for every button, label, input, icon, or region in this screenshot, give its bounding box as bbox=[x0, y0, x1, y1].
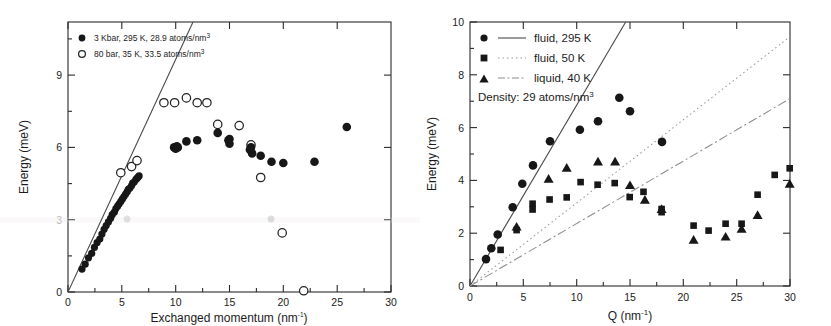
y-tick-labels-right: 0 2 4 6 8 10 bbox=[452, 16, 464, 292]
series-square-right bbox=[497, 165, 793, 253]
dispersion-line-left bbox=[68, 22, 193, 292]
scan-artifact-dot bbox=[268, 216, 275, 223]
x-tick-labels-left: 0 5 10 15 20 25 30 bbox=[65, 296, 397, 308]
svg-text:6: 6 bbox=[458, 122, 464, 134]
svg-text:4: 4 bbox=[458, 174, 464, 186]
scan-artifact-dot-2 bbox=[124, 216, 131, 223]
legend-marker-circle bbox=[480, 34, 487, 41]
series-filled-circle-left bbox=[78, 123, 351, 273]
y-axis-ticks-right bbox=[470, 22, 790, 286]
svg-text:8: 8 bbox=[458, 69, 464, 81]
svg-text:10: 10 bbox=[452, 16, 464, 28]
figure-container: 0 5 10 15 20 25 30 0 3 6 9 Exchanged mom… bbox=[0, 0, 831, 326]
svg-text:5: 5 bbox=[520, 291, 526, 303]
plot-frame-left bbox=[68, 22, 391, 292]
y-tick-labels-left: 0 3 6 9 bbox=[56, 69, 62, 298]
legend-left: 3 Kbar, 295 K, 28.9 atoms/nm3 80 bar, 35… bbox=[79, 32, 211, 59]
legend-label-1: 80 bar, 35 K, 33.5 atoms/nm3 bbox=[94, 48, 205, 59]
x-axis-title-left: Exchanged momentum (nm-1) bbox=[150, 311, 307, 325]
legend-label-r-1: fluid, 50 K bbox=[534, 52, 585, 64]
svg-text:15: 15 bbox=[624, 291, 636, 303]
legend-marker-filled-circle bbox=[79, 35, 86, 42]
svg-text:20: 20 bbox=[277, 296, 289, 308]
x-axis-title-right: Q (nm-1) bbox=[608, 308, 652, 323]
plot-frame-right bbox=[470, 22, 790, 286]
right-panel-svg: 0 5 10 15 20 25 30 0 2 4 6 8 10 Q (nm-1)… bbox=[420, 0, 831, 326]
dispersion-lines-right bbox=[470, 22, 790, 286]
svg-text:10: 10 bbox=[170, 296, 182, 308]
svg-text:6: 6 bbox=[56, 141, 62, 153]
x-axis-ticks-left bbox=[68, 22, 391, 292]
x-axis-ticks-right bbox=[470, 22, 790, 286]
svg-text:0: 0 bbox=[65, 296, 71, 308]
svg-text:30: 30 bbox=[784, 291, 796, 303]
svg-text:0: 0 bbox=[56, 286, 62, 298]
svg-text:25: 25 bbox=[331, 296, 343, 308]
series-triangle-right bbox=[512, 157, 795, 244]
legend-marker-square bbox=[481, 55, 488, 62]
svg-text:2: 2 bbox=[458, 227, 464, 239]
series-circle-right bbox=[482, 94, 667, 264]
y-axis-title-right: Energy (meV) bbox=[425, 117, 439, 191]
sound-line-50k bbox=[470, 37, 790, 286]
chart-panel-right: 0 5 10 15 20 25 30 0 2 4 6 8 10 Q (nm-1)… bbox=[420, 0, 831, 326]
legend-right: fluid, 295 K fluid, 50 K liquid, 40 K De… bbox=[478, 32, 594, 103]
svg-text:0: 0 bbox=[467, 291, 473, 303]
svg-text:30: 30 bbox=[385, 296, 397, 308]
svg-text:9: 9 bbox=[56, 69, 62, 81]
legend-label-r-2: liquid, 40 K bbox=[534, 72, 591, 84]
legend-label-0: 3 Kbar, 295 K, 28.9 atoms/nm3 bbox=[94, 32, 210, 43]
left-panel-svg: 0 5 10 15 20 25 30 0 3 6 9 Exchanged mom… bbox=[0, 0, 420, 326]
sound-line-40k bbox=[470, 99, 790, 286]
svg-text:20: 20 bbox=[677, 291, 689, 303]
y-axis-ticks-left bbox=[68, 39, 391, 292]
svg-text:10: 10 bbox=[571, 291, 583, 303]
svg-text:0: 0 bbox=[458, 280, 464, 292]
density-annotation: Density: 29 atoms/nm3 bbox=[478, 90, 594, 103]
svg-text:15: 15 bbox=[224, 296, 236, 308]
legend-label-r-0: fluid, 295 K bbox=[534, 32, 592, 44]
legend-marker-triangle bbox=[479, 74, 488, 82]
y-axis-title-left: Energy (meV) bbox=[17, 120, 31, 194]
x-tick-labels-right: 0 5 10 15 20 25 30 bbox=[467, 291, 796, 303]
legend-marker-open-circle bbox=[79, 51, 86, 58]
svg-text:5: 5 bbox=[119, 296, 125, 308]
chart-panel-left: 0 5 10 15 20 25 30 0 3 6 9 Exchanged mom… bbox=[0, 0, 420, 326]
svg-text:25: 25 bbox=[731, 291, 743, 303]
